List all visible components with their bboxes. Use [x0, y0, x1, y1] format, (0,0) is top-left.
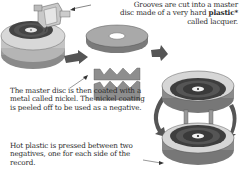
- lacquer-master-disc: [86, 25, 148, 53]
- caption-text: called lacquer.: [187, 17, 238, 26]
- record-press: [162, 71, 234, 165]
- step-cutting-caption: Grooves are cut into a master disc made …: [118, 1, 238, 26]
- step-coating-caption: The master disc is then coated with a me…: [10, 87, 150, 112]
- cutting-lathe: [1, 3, 70, 69]
- step-pressing-caption: Hot plastic is pressed between two negat…: [10, 142, 145, 167]
